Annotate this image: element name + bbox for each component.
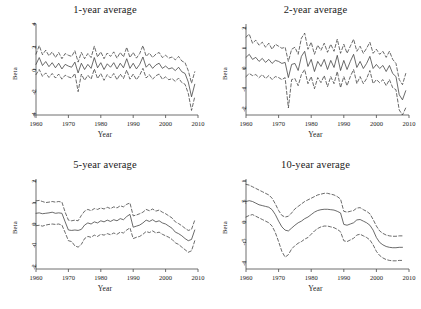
x-tick-label: 2000 [159,120,172,127]
x-tick-label: 1970 [62,274,75,281]
series-estimate [36,212,195,241]
series-estimate [246,51,406,100]
y-tick-label: 0 [240,220,247,223]
x-tick-label: 2000 [159,274,172,281]
y-tick-label: -1 [30,243,37,248]
x-tick-label: 1960 [30,274,43,281]
y-tick-label: .5 [240,199,247,204]
series-upper-ci [36,200,195,230]
x-tick-label: 1980 [305,274,318,281]
y-axis-label: Beta [11,221,18,234]
x-tick-label: 1980 [94,274,107,281]
x-tick-label: 1970 [272,120,285,127]
y-tick-label: -.5 [240,239,247,246]
x-axis-label: Year [0,284,210,293]
y-axis-label: Beta [221,67,228,80]
x-axis-label: Year [210,130,421,139]
y-tick-label: 1 [30,201,37,204]
x-tick-label: 2010 [192,274,205,281]
figure-grid: 1-year average 420-2-4196019701980199020… [0,0,421,309]
y-tick-label: 0 [30,222,37,225]
panel-5-year: 5-year average 210-1-2196019701980199020… [0,155,210,309]
series-upper-ci [36,46,195,84]
x-tick-label: 1990 [337,120,350,127]
y-tick-label: 0 [240,67,247,70]
series-lower-ci [36,224,195,252]
series-lower-ci [36,68,195,110]
y-tick-label: -2 [240,106,247,111]
x-tick-label: 1960 [30,120,43,127]
series-upper-ci [246,184,402,236]
series-lower-ci [246,70,406,116]
x-tick-label: 1960 [240,120,253,127]
y-tick-label: -4 [30,112,37,117]
y-tick-label: 0 [30,68,37,71]
x-tick-label: 2010 [403,274,416,281]
x-axis-label: Year [0,130,210,139]
x-axis-label: Year [210,284,421,293]
panel-1-year: 1-year average 420-2-4196019701980199020… [0,0,210,155]
y-tick-label: -2 [30,264,37,269]
y-tick-label: 2 [30,180,37,183]
y-tick-label: 2 [240,26,247,29]
x-tick-label: 2000 [370,120,383,127]
series-estimate [246,201,402,248]
x-tick-label: 1970 [272,274,285,281]
y-tick-label: 1 [240,179,247,182]
x-tick-label: 2010 [192,120,205,127]
x-tick-label: 1970 [62,120,75,127]
x-tick-label: 2000 [370,274,383,281]
y-tick-label: 2 [30,45,37,48]
y-axis-label: Beta [221,221,228,234]
x-tick-label: 1960 [240,274,253,281]
y-tick-label: -1 [240,86,247,91]
x-tick-label: 1990 [127,274,140,281]
y-tick-label: 1 [240,47,247,50]
x-tick-label: 1990 [337,274,350,281]
y-axis-label: Beta [11,67,18,80]
panel-10-year: 10-year average 1.50-.5-1196019701980199… [210,155,421,309]
y-tick-label: -1 [240,260,247,265]
x-tick-label: 1990 [127,120,140,127]
y-tick-label: 4 [30,22,37,25]
panel-2-year: 2-year average 210-1-2196019701980199020… [210,0,421,155]
x-tick-label: 2010 [403,120,416,127]
y-tick-label: -2 [30,90,37,95]
x-tick-label: 1980 [305,120,318,127]
x-tick-label: 1980 [94,120,107,127]
series-lower-ci [246,215,402,261]
